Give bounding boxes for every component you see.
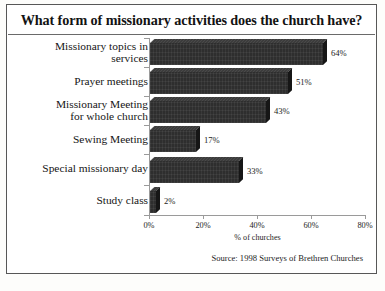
y-axis-tick <box>144 67 149 68</box>
bar-value-label: 64% <box>331 48 347 58</box>
y-axis-tick <box>144 96 149 97</box>
chart-frame: What form of missionary activities does … <box>6 4 377 274</box>
bar-face <box>150 72 288 94</box>
category-label: Special missionary day <box>0 162 148 174</box>
scanned-page: What form of missionary activities does … <box>0 0 385 291</box>
bar-top-face <box>150 97 270 101</box>
bar-face <box>150 43 323 65</box>
bar-face <box>150 130 196 152</box>
x-axis-tick-label: 40% <box>249 221 264 230</box>
bar-side-face <box>156 187 160 213</box>
x-axis-tick <box>311 215 312 219</box>
y-axis-tick <box>144 125 149 126</box>
x-axis-tick <box>149 215 150 219</box>
category-label-line: Sewing Meeting <box>0 133 148 145</box>
plot-area: Missionary topics in services Prayer mee… <box>7 35 376 274</box>
bar-top-face <box>150 157 243 161</box>
bar-side-face <box>239 157 243 183</box>
y-axis-tick <box>144 38 149 39</box>
bar-top-face <box>150 126 200 130</box>
x-axis-tick-label: 60% <box>303 221 318 230</box>
category-label-line: Prayer meetings <box>0 75 148 87</box>
category-label-line: Special missionary day <box>0 162 148 174</box>
x-axis-tick <box>257 215 258 219</box>
category-label-line: Missionary Meeting <box>0 98 148 110</box>
x-axis-tick-label: 20% <box>195 221 210 230</box>
bar-side-face <box>196 126 200 152</box>
bar-side-face <box>288 68 292 94</box>
bar-top-face <box>150 68 292 72</box>
y-axis-tick <box>144 185 149 186</box>
category-label: Missionary Meeting for whole church <box>0 98 148 122</box>
category-label: Missionary topics in services <box>0 40 148 64</box>
bar-side-face <box>266 97 270 123</box>
bar-value-label: 33% <box>247 166 263 176</box>
bar-value-label: 51% <box>296 77 312 87</box>
x-axis-tick-label: 80% <box>357 221 372 230</box>
figure-caption <box>0 279 385 291</box>
bar-value-label: 43% <box>274 106 290 116</box>
bar-value-label: 2% <box>164 196 175 206</box>
category-label-line: for whole church <box>0 110 148 122</box>
bar-face <box>150 101 266 123</box>
x-axis-tick <box>203 215 204 219</box>
x-axis-tick-label: 0% <box>143 221 154 230</box>
bar-face <box>150 161 239 183</box>
bar-top-face <box>150 39 327 43</box>
bar-side-face <box>323 39 327 65</box>
x-axis-tick <box>365 215 366 219</box>
y-axis-tick <box>144 154 149 155</box>
source-note: Source: 1998 Surveys of Brethren Churche… <box>211 253 363 263</box>
category-label: Sewing Meeting <box>0 133 148 145</box>
bar-value-label: 17% <box>204 135 220 145</box>
x-axis-title: % of churches <box>149 233 366 242</box>
category-label-line: Study class <box>0 194 148 206</box>
category-label-line: Missionary topics in <box>0 40 148 52</box>
category-label: Study class <box>0 194 148 206</box>
category-label: Prayer meetings <box>0 75 148 87</box>
chart-title: What form of missionary activities does … <box>7 12 376 29</box>
category-label-line: services <box>0 52 148 64</box>
